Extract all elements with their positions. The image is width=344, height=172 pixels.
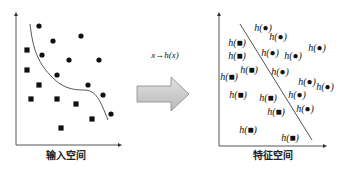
decision-curve	[30, 24, 108, 120]
mapped-square-label: h(■)	[259, 92, 277, 104]
mapped-circle-label: h(●)	[271, 66, 289, 78]
mapped-square-label: h(■)	[267, 106, 285, 118]
circle-point	[85, 82, 90, 87]
mapped-circle-label: h(●)	[284, 50, 302, 62]
square-point	[73, 101, 78, 106]
square-point	[24, 67, 29, 72]
circle-point	[54, 72, 59, 77]
mapped-circle-label: h(●)	[288, 89, 306, 101]
feature-space-panel: h(●)h(●)h(●)h(●)h(●)h(●)h(●)h(●)h(●)h(●)…	[219, 14, 335, 161]
feature-mapping-diagram: 输入空间 x→h(x) h(●)h(●)h(●)h(●)h(●)h(●)h(●)…	[0, 0, 344, 172]
mapped-circle-label: h(●)	[296, 103, 314, 115]
mapped-circle-label: h(●)	[261, 47, 279, 59]
square-points	[24, 47, 94, 130]
circle-point	[100, 92, 105, 97]
square-point	[89, 116, 94, 121]
right-arrow-icon	[137, 77, 189, 111]
square-point	[24, 47, 29, 52]
mapped-circle-label: h(●)	[308, 42, 326, 54]
circle-point	[78, 33, 83, 38]
square-point	[28, 96, 33, 101]
mapped-circle-label: h(●)	[298, 76, 316, 88]
mapped-square-label: h(■)	[228, 50, 246, 62]
input-space-panel: 输入空间	[16, 14, 120, 161]
circle-point	[39, 52, 44, 57]
input-space-caption: 输入空间	[46, 149, 86, 161]
square-point	[58, 125, 63, 130]
mapped-circle-label: h(●)	[316, 81, 334, 93]
mapped-points: h(●)h(●)h(●)h(●)h(●)h(●)h(●)h(●)h(●)h(●)…	[220, 22, 334, 144]
mapped-square-label: h(■)	[281, 132, 299, 144]
circle-point	[96, 57, 101, 62]
circle-point	[36, 23, 41, 28]
circle-point	[50, 38, 55, 43]
mapping-arrow: x→h(x)	[137, 50, 189, 111]
mapped-square-label: h(■)	[239, 124, 257, 136]
feature-space-caption: 特征空间	[253, 149, 293, 161]
mapped-square-label: h(■)	[229, 89, 247, 101]
mapped-square-label: h(■)	[228, 37, 246, 49]
mapped-square-label: h(■)	[220, 71, 238, 83]
mapped-square-label: h(■)	[240, 64, 258, 76]
square-point	[54, 96, 59, 101]
mapped-circle-label: h(●)	[269, 31, 287, 43]
square-point	[36, 82, 41, 87]
circle-point	[66, 57, 71, 62]
mapping-label: x→h(x)	[150, 50, 178, 60]
circle-point	[108, 111, 113, 116]
